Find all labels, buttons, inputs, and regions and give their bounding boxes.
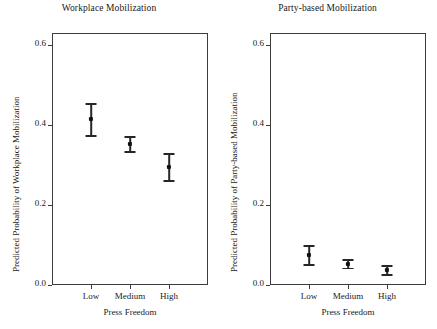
y-tick-label: 0.0	[253, 278, 264, 288]
error-bar-cap-lower	[86, 135, 97, 137]
error-bar-cap-lower	[382, 274, 393, 276]
y-tick-label: 0.6	[35, 38, 46, 48]
y-tick-label: 0.0	[35, 278, 46, 288]
data-point-low	[307, 253, 311, 257]
error-bar-cap-lower	[164, 180, 175, 182]
y-tick-label: 0.6	[253, 38, 264, 48]
plot-area-workplace	[52, 33, 208, 285]
error-bar-cap-lower	[125, 151, 136, 153]
x-tick-label-high: High	[160, 291, 178, 301]
panel-party-based-mobilization: Party-based Mobilization Predicted Proba…	[218, 0, 437, 329]
x-tick-label-low: Low	[301, 291, 318, 301]
x-tick-label-medium: Medium	[115, 291, 146, 301]
y-tick-label: 0.2	[35, 198, 46, 208]
x-axis-title-workplace: Press Freedom	[52, 307, 208, 317]
figure-two-panel-predicted-probabilities: Workplace Mobilization Predicted Probabi…	[0, 0, 437, 329]
error-bar-cap-upper	[125, 136, 136, 138]
panel-title-workplace: Workplace Mobilization	[0, 3, 218, 13]
error-bar-cap-upper	[382, 265, 393, 267]
error-bar-cap-upper	[304, 245, 315, 247]
y-tick-label: 0.4	[253, 118, 264, 128]
x-tick-mark	[348, 285, 349, 289]
data-point-medium	[346, 262, 350, 266]
error-bar-cap-upper	[164, 153, 175, 155]
x-tick-label-low: Low	[83, 291, 100, 301]
y-tick-label: 0.4	[35, 118, 46, 128]
x-tick-mark	[309, 285, 310, 289]
x-tick-label-high: High	[378, 291, 396, 301]
x-tick-mark	[169, 285, 170, 289]
error-bar-cap-upper	[86, 103, 97, 105]
y-axis-party: 0.00.20.40.6	[218, 33, 270, 285]
y-axis-workplace: 0.00.20.40.6	[0, 33, 52, 285]
x-tick-mark	[91, 285, 92, 289]
error-bar-cap-upper	[343, 259, 354, 261]
data-point-high	[167, 165, 171, 169]
x-tick-mark	[387, 285, 388, 289]
error-bar-cap-lower	[304, 264, 315, 266]
data-point-high	[385, 268, 389, 272]
panel-title-party: Party-based Mobilization	[218, 3, 437, 13]
panel-workplace-mobilization: Workplace Mobilization Predicted Probabi…	[0, 0, 218, 329]
y-tick-label: 0.2	[253, 198, 264, 208]
x-tick-mark	[130, 285, 131, 289]
plot-area-party	[270, 33, 426, 285]
x-tick-label-medium: Medium	[333, 291, 364, 301]
error-bar-cap-lower	[343, 268, 354, 270]
x-axis-title-party: Press Freedom	[270, 307, 426, 317]
data-point-medium	[128, 142, 132, 146]
data-point-low	[89, 117, 93, 121]
